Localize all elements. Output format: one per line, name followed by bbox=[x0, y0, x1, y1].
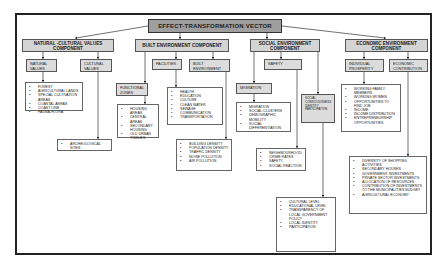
list-item: SOCIAL DIFFERENTIATION bbox=[240, 122, 288, 130]
natural-cultural-component-node: NATURAL -CULTURAL VALUES COMPONENT bbox=[22, 39, 114, 52]
list-item: DEMOGRAPHIC MOBILITY bbox=[240, 113, 288, 121]
migration-label: MIGRATION bbox=[240, 86, 261, 91]
economic-environment-component-node: ECONOMIC ENVIRONMENT COMPONENT bbox=[345, 39, 428, 52]
list-item: OLD URBAN TISSUES bbox=[121, 132, 156, 140]
safety-label: SAFETY bbox=[268, 62, 283, 67]
list-item: OPPORTUNITIES TO FIND JOB bbox=[345, 100, 398, 108]
individual-prosperity-node: INDIVIDUAL PROSPERITY bbox=[345, 59, 384, 72]
natural-cultural-component-label: NATURAL -CULTURAL VALUES COMPONENT bbox=[24, 41, 112, 51]
natural-values-list: FOREST AGRICULTURAL LANDS SPECIAL CULTIV… bbox=[25, 82, 83, 111]
social-environment-component-node: SOCIAL ENVIRONMENT COMPONENT bbox=[250, 39, 320, 52]
economic-contribution-node: ECONOMIC CONTRIBUTION bbox=[389, 59, 428, 72]
list-item: SPECIAL CULTIVATION AREAS bbox=[29, 93, 80, 101]
built-environment-node: BUILT ENVIRONMENT bbox=[189, 59, 230, 72]
safety-list: NEIGHBOURHOOD CRIME RATES SAFETY SOCIAL … bbox=[256, 148, 306, 171]
economic-environment-component-label: ECONOMIC ENVIRONMENT COMPONENT bbox=[347, 41, 426, 51]
functional-zones-list: HOUSING AREAS CENTRAL AREAS SECONDARY HO… bbox=[117, 104, 159, 138]
list-item: SOCIAL REACTION bbox=[260, 164, 303, 168]
individual-prosperity-label: INDIVIDUAL PROSPERITY bbox=[349, 62, 380, 72]
list-item: AGRICULTURAL ECONOMY bbox=[353, 193, 424, 197]
list-item: WORKING FAMILY MEMBERS bbox=[345, 87, 398, 95]
root-node-effect-transformation-vector: EFFECT-TRANSFORMATION VECTOR bbox=[148, 19, 282, 33]
list-item: HOUSING AREAS bbox=[121, 107, 156, 115]
list-item: CONTRIBUTION OF INVESTMENTS TO THE MUNIC… bbox=[353, 184, 424, 192]
facilities-label: FACILITIES bbox=[156, 62, 176, 67]
economic-contribution-label: ECONOMIC CONTRIBUTION bbox=[393, 62, 424, 72]
root-label: EFFECT-TRANSFORMATION VECTOR bbox=[158, 24, 272, 29]
list-item: TRANSPARENCY OF LOCAL GOVERNMENT POLICY bbox=[280, 208, 333, 221]
built-environment-label: BUILT ENVIRONMENT bbox=[193, 62, 226, 72]
functional-zones-node: FUNCTIONAL ZONES bbox=[116, 83, 148, 96]
cultural-values-label: CULTURAL VALUES bbox=[84, 62, 108, 72]
natural-values-node: NATURAL VALUES bbox=[26, 59, 57, 72]
facilities-node: FACILITIES bbox=[152, 59, 182, 70]
list-item: DIVERSITY OF SHOPPING ACTIVITIES bbox=[353, 159, 424, 167]
list-item: PARTICIPATION bbox=[280, 225, 333, 229]
list-item: AIR POLLUTION bbox=[180, 159, 229, 163]
social-participation-label: SOCIAL CONSCIOUSNESS IDENTITY PARTICIPAT… bbox=[305, 97, 331, 112]
list-item: SECONDARY HOUSING bbox=[121, 124, 156, 132]
list-item: FAUNA-FLORA bbox=[29, 110, 80, 114]
facilities-list: HEALTH EDUCATION CULTURE CLEAN WATER SEW… bbox=[167, 87, 223, 125]
list-item: ENTREPRENEURSHIP OPPORTUNITIES bbox=[345, 116, 398, 124]
individual-prosperity-list: WORKING FAMILY MEMBERS WORKING WOMEN OPP… bbox=[341, 84, 401, 132]
cultural-values-list: ARCHEOLOGICAL SITES bbox=[57, 139, 112, 151]
social-environment-component-label: SOCIAL ENVIRONMENT COMPONENT bbox=[252, 41, 318, 51]
economic-contribution-list: DIVERSITY OF SHOPPING ACTIVITIES SECONDA… bbox=[349, 156, 427, 214]
migration-list: MIGRATION SOCIAL CLUSTERS DEMOGRAPHIC MO… bbox=[236, 102, 291, 132]
migration-node: MIGRATION bbox=[236, 83, 272, 94]
cultural-values-node: CULTURAL VALUES bbox=[80, 59, 112, 72]
social-participation-node: SOCIAL CONSCIOUSNESS IDENTITY PARTICIPAT… bbox=[301, 94, 335, 123]
list-item: ARCHEOLOGICAL SITES bbox=[61, 142, 109, 150]
social-participation-list: CULTURAL LEVEL EDUCATIONAL LEVEL TRANSPA… bbox=[276, 197, 336, 252]
functional-zones-label: FUNCTIONAL ZONES bbox=[120, 86, 144, 96]
built-environment-list: BUILDING DENSITY POPULATION DENSITY TRAF… bbox=[176, 139, 232, 171]
natural-values-label: NATURAL VALUES bbox=[30, 62, 53, 72]
list-item: CENTRAL AREAS bbox=[121, 115, 156, 123]
list-item: TRANSPORTATION bbox=[171, 115, 220, 119]
safety-node: SAFETY bbox=[264, 59, 302, 70]
built-environment-component-label: BUILT ENVIRONMENT COMPONENT bbox=[142, 43, 222, 48]
built-environment-component-node: BUILT ENVIRONMENT COMPONENT bbox=[135, 39, 229, 52]
